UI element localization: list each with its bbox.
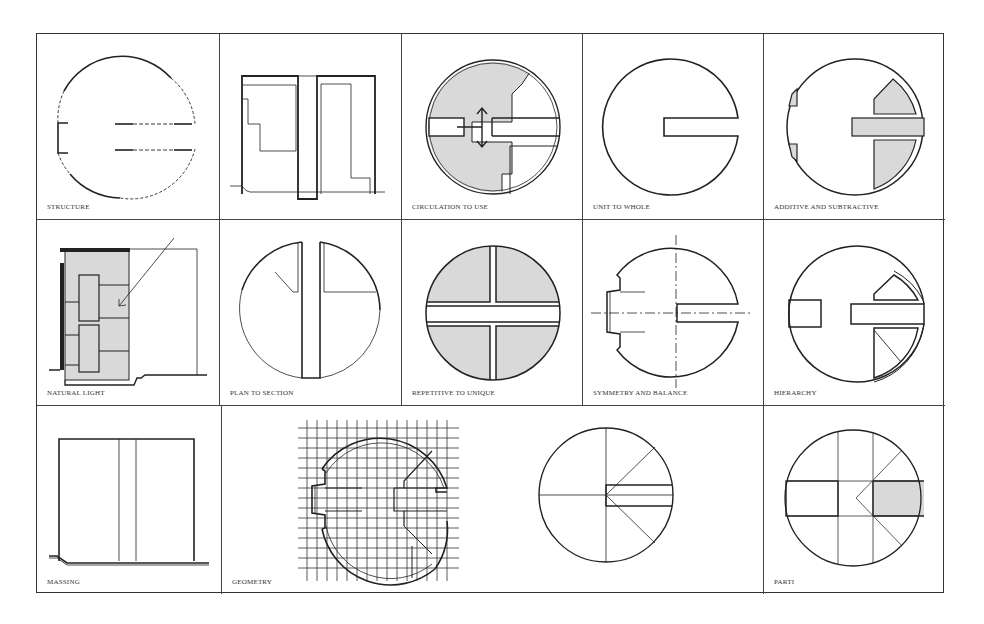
cell-parti: PARTI — [764, 406, 945, 594]
cell-repetitive: REPETITIVE TO UNIQUE — [402, 220, 583, 406]
cell-circulation: CIRCULATION TO USE — [402, 34, 583, 220]
geometry-label: GEOMETRY — [232, 578, 272, 586]
cell-symmetry: SYMMETRY AND BALANCE — [583, 220, 764, 406]
cell-massing: MASSING — [37, 406, 222, 594]
additive-label: ADDITIVE AND SUBTRACTIVE — [774, 203, 879, 211]
massing-label: MASSING — [47, 578, 80, 586]
section-diagram — [220, 34, 402, 220]
natural-light-label: NATURAL LIGHT — [47, 389, 105, 397]
repetitive-label: REPETITIVE TO UNIQUE — [412, 389, 495, 397]
cell-plan-section: PLAN TO SECTION — [220, 220, 402, 406]
hierarchy-diagram — [764, 220, 945, 406]
cell-section — [220, 34, 402, 220]
parti-diagram — [764, 406, 945, 594]
structure-diagram — [37, 34, 220, 220]
symmetry-diagram — [583, 220, 764, 406]
cell-unit-whole: UNIT TO WHOLE — [583, 34, 764, 220]
diagram-sheet: STRUCTURE — [36, 33, 944, 593]
repetitive-diagram — [402, 220, 583, 406]
plan-section-label: PLAN TO SECTION — [230, 389, 293, 397]
structure-label: STRUCTURE — [47, 203, 90, 211]
natural-light-diagram — [37, 220, 220, 406]
parti-label: PARTI — [774, 578, 794, 586]
geometry-grid — [298, 420, 459, 581]
cell-structure: STRUCTURE — [37, 34, 220, 220]
cell-geometry: GEOMETRY — [222, 406, 764, 594]
plan-section-diagram — [220, 220, 402, 406]
unit-whole-diagram — [583, 34, 764, 220]
circulation-diagram — [402, 34, 583, 220]
cell-hierarchy: HIERARCHY — [764, 220, 945, 406]
hierarchy-label: HIERARCHY — [774, 389, 817, 397]
additive-diagram — [764, 34, 945, 220]
cell-natural-light: NATURAL LIGHT — [37, 220, 220, 406]
cell-additive: ADDITIVE AND SUBTRACTIVE — [764, 34, 945, 220]
circulation-label: CIRCULATION TO USE — [412, 203, 488, 211]
geometry-diagram — [222, 406, 764, 594]
symmetry-label: SYMMETRY AND BALANCE — [593, 389, 687, 397]
unit-whole-label: UNIT TO WHOLE — [593, 203, 650, 211]
massing-diagram — [37, 406, 222, 594]
